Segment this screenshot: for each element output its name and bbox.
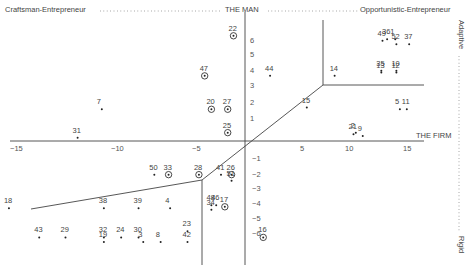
svg-text:−2: −2 xyxy=(252,170,261,179)
svg-text:4: 4 xyxy=(250,66,254,75)
dot-marker-icon xyxy=(362,135,364,137)
point-label: 39 xyxy=(134,196,142,205)
svg-text:−15: −15 xyxy=(10,144,23,153)
point-34: 34 xyxy=(206,198,214,211)
point-16: 16 xyxy=(258,225,266,240)
dot-marker-icon xyxy=(38,236,40,238)
point-label: 28 xyxy=(194,163,202,172)
dot-marker-icon xyxy=(142,241,144,243)
dot-marker-icon xyxy=(380,72,382,74)
point-12: 12 xyxy=(391,61,399,74)
dot-marker-icon xyxy=(399,108,401,110)
dot-marker-icon xyxy=(406,108,408,110)
lower-left-horizontal-a xyxy=(31,180,202,209)
scatter-chart: Craftsman-Entrepreneur THE MAN Opportuni… xyxy=(0,0,472,271)
point-label: 25 xyxy=(223,121,231,130)
point-label: 49 xyxy=(377,29,385,38)
dot-marker-icon xyxy=(204,75,206,77)
point-label: 51 xyxy=(227,169,235,178)
point-label: 42 xyxy=(183,230,191,239)
point-3: 3 xyxy=(138,230,144,243)
point-label: 3 xyxy=(138,230,142,239)
dot-marker-icon xyxy=(198,174,200,176)
point-7: 7 xyxy=(97,97,103,110)
point-label: 12 xyxy=(391,61,399,70)
dot-marker-icon xyxy=(8,207,10,209)
point-47: 47 xyxy=(200,64,208,79)
dot-marker-icon xyxy=(395,43,397,45)
header-left-label: Craftsman-Entrepreneur xyxy=(5,5,86,14)
point-25: 25 xyxy=(223,121,231,136)
dot-marker-icon xyxy=(138,207,140,209)
svg-text:−3: −3 xyxy=(252,184,261,193)
svg-text:5: 5 xyxy=(250,50,254,59)
point-label: 33 xyxy=(164,163,172,172)
point-label: 52 xyxy=(391,32,399,41)
svg-text:1: 1 xyxy=(250,114,254,123)
point-13: 13 xyxy=(376,61,384,74)
svg-text:15: 15 xyxy=(403,144,411,153)
point-52: 52 xyxy=(391,32,399,45)
point-17: 17 xyxy=(220,195,228,210)
point-44: 44 xyxy=(265,64,273,77)
dot-marker-icon xyxy=(210,209,212,211)
svg-text:6: 6 xyxy=(250,36,254,45)
point-14: 14 xyxy=(330,64,338,77)
point-label: 24 xyxy=(116,225,124,234)
data-points: 2247442027725311415364915237351013125112… xyxy=(4,24,413,243)
point-label: 29 xyxy=(60,225,68,234)
point-label: 13 xyxy=(376,61,384,70)
svg-text:−1: −1 xyxy=(252,154,261,163)
point-label: 19 xyxy=(99,230,107,239)
dot-marker-icon xyxy=(408,43,410,45)
dot-marker-icon xyxy=(231,180,233,182)
point-31: 31 xyxy=(73,126,81,139)
side-label-bottom: Rigid xyxy=(457,236,466,253)
svg-text:−5: −5 xyxy=(252,214,261,223)
point-51: 51 xyxy=(227,169,235,182)
dot-marker-icon xyxy=(160,241,162,243)
point-33: 33 xyxy=(164,163,172,178)
point-29: 29 xyxy=(60,225,68,238)
point-label: 27 xyxy=(223,97,231,106)
dot-marker-icon xyxy=(395,72,397,74)
point-label: 38 xyxy=(99,196,107,205)
dot-marker-icon xyxy=(355,132,357,134)
dot-marker-icon xyxy=(220,174,222,176)
point-50: 50 xyxy=(149,163,157,176)
point-label: 14 xyxy=(330,64,338,73)
point-label: 41 xyxy=(216,163,224,172)
svg-text:−4: −4 xyxy=(252,199,261,208)
dot-marker-icon xyxy=(262,236,264,238)
header-right-label: Opportunistic-Entrepreneur xyxy=(360,5,451,14)
point-5: 5 xyxy=(395,97,401,110)
dot-marker-icon xyxy=(381,40,383,42)
point-label: 8 xyxy=(156,230,160,239)
point-28: 28 xyxy=(194,163,202,178)
x-axis-label: THE FIRM xyxy=(416,131,451,140)
dot-marker-icon xyxy=(187,241,189,243)
point-label: 37 xyxy=(404,32,412,41)
point-label: 20 xyxy=(206,97,214,106)
point-label: 31 xyxy=(73,126,81,135)
dot-marker-icon xyxy=(153,174,155,176)
point-label: 5 xyxy=(395,97,399,106)
dot-marker-icon xyxy=(103,207,105,209)
point-label: 22 xyxy=(228,24,236,33)
point-label: 34 xyxy=(206,198,214,207)
point-8: 8 xyxy=(156,230,162,243)
point-41: 41 xyxy=(216,163,224,176)
svg-text:5: 5 xyxy=(300,144,304,153)
point-label: 43 xyxy=(34,225,42,234)
x-ticks: −15 −10 −5 5 10 15 xyxy=(10,144,411,153)
point-label: 47 xyxy=(200,64,208,73)
point-20: 20 xyxy=(206,97,214,112)
point-39: 39 xyxy=(134,196,142,209)
dot-marker-icon xyxy=(101,108,103,110)
point-label: 9 xyxy=(358,124,362,133)
dot-marker-icon xyxy=(120,236,122,238)
point-19: 19 xyxy=(99,230,107,243)
dot-marker-icon xyxy=(227,132,229,134)
dot-marker-icon xyxy=(352,133,354,135)
point-label: 18 xyxy=(4,196,12,205)
